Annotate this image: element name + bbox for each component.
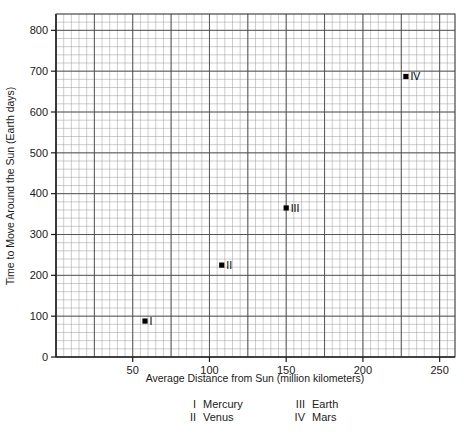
legend-label-mercury: Mercury: [203, 398, 243, 410]
x-tick-label: 50: [127, 364, 139, 376]
point-label: IV: [410, 70, 420, 82]
y-tick-label: 100: [30, 310, 48, 322]
y-tick-label: 200: [30, 269, 48, 281]
point-marker: [219, 263, 224, 268]
point-label: III: [291, 202, 300, 214]
legend-numeral-3: III: [296, 398, 305, 410]
legend-label-venus: Venus: [203, 411, 234, 423]
point-marker: [142, 318, 147, 323]
legend-label-earth: Earth: [312, 398, 338, 410]
y-tick-label: 0: [42, 351, 48, 363]
chart-svg: 0100200300400500600700800 50100150200250…: [0, 0, 474, 434]
legend-numeral-2: II: [190, 411, 196, 423]
x-axis-title: Average Distance from Sun (million kilom…: [146, 372, 365, 384]
x-tick-label: 250: [430, 364, 448, 376]
y-tick-label: 400: [30, 187, 48, 199]
legend-numeral-4: IV: [295, 411, 306, 423]
y-tick-label: 300: [30, 228, 48, 240]
point-label: II: [226, 259, 232, 271]
y-tick-label: 500: [30, 147, 48, 159]
scatter-chart: 0100200300400500600700800 50100150200250…: [0, 0, 474, 434]
point-label: I: [150, 315, 153, 327]
y-axis-title: Time to Move Around the Sun (Earth days): [4, 87, 16, 286]
y-tick-label: 700: [30, 65, 48, 77]
y-tick-label: 600: [30, 106, 48, 118]
legend-label-mars: Mars: [312, 411, 337, 423]
point-marker: [403, 74, 408, 79]
legend-numeral-1: I: [193, 398, 196, 410]
y-tick-label: 800: [30, 24, 48, 36]
point-marker: [284, 205, 289, 210]
